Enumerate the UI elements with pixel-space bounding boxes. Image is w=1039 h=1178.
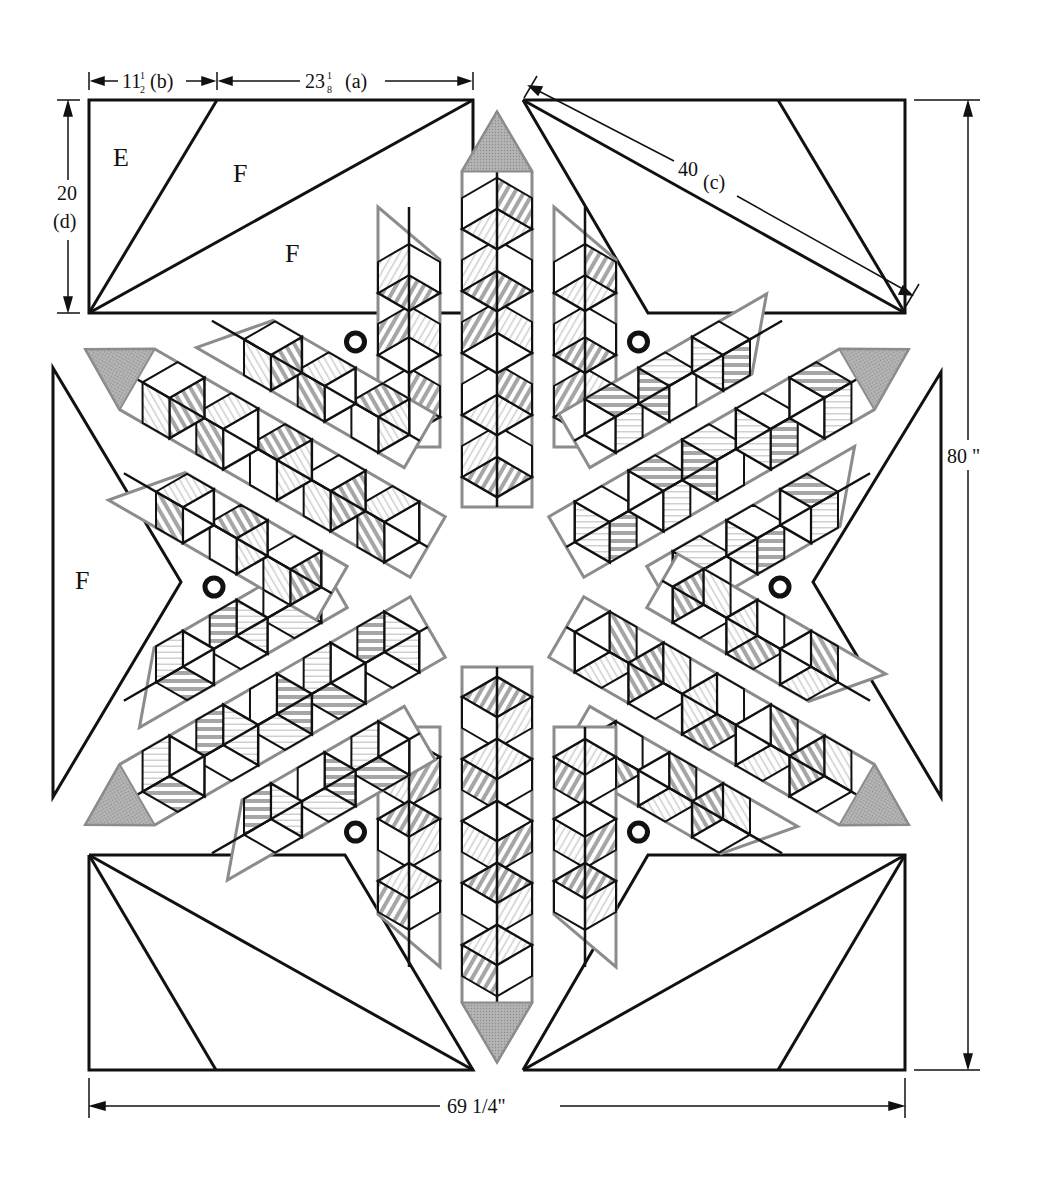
dim-b-den: 2 xyxy=(140,84,145,95)
dim-a-num: 1 xyxy=(327,70,332,81)
dim-total-height: 80 " xyxy=(947,445,980,467)
connector-ring-icon xyxy=(630,333,648,351)
connector-ring-icon xyxy=(630,823,648,841)
dim-c-tag: (c) xyxy=(703,171,725,194)
quilt-diagram: 11 1 2 (b) 23 1 8 (a) 40 (c) 20 (d) 80 "… xyxy=(0,0,1039,1178)
label-piece-e: E xyxy=(113,143,129,172)
dim-a-den: 8 xyxy=(327,84,332,95)
dim-b-num: 1 xyxy=(140,70,145,81)
right-side-piece xyxy=(813,372,941,797)
label-piece-f-left: F xyxy=(75,566,89,595)
connector-ring-icon xyxy=(205,578,223,596)
dim-total-width: 69 1/4" xyxy=(447,1095,506,1117)
dim-b-whole: 11 xyxy=(122,70,141,92)
connector-ring-icon xyxy=(771,578,789,596)
six-point-star xyxy=(26,112,968,1062)
label-piece-f-lower: F xyxy=(285,239,299,268)
dim-c-value: 40 xyxy=(678,158,698,180)
dim-b-tag: (b) xyxy=(150,70,173,93)
dim-a-whole: 23 xyxy=(305,70,325,92)
dim-d-tag: (d) xyxy=(53,210,76,233)
connector-ring-icon xyxy=(347,823,365,841)
dim-d-value: 20 xyxy=(57,182,77,204)
dim-a-tag: (a) xyxy=(345,70,367,93)
label-piece-f-upper: F xyxy=(233,159,247,188)
connector-ring-icon xyxy=(347,333,365,351)
